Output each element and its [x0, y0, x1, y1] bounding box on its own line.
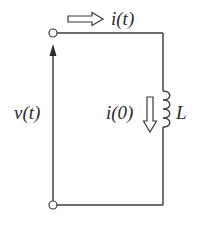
voltage-arrow-head-icon: [50, 44, 57, 56]
current-label: i(t): [111, 8, 134, 30]
inductor-label: L: [175, 102, 187, 123]
terminal-top-icon: [49, 29, 57, 37]
terminal-bottom-icon: [49, 201, 57, 209]
initial-current-arrow-icon: [144, 97, 157, 132]
current-arrow-icon: [68, 13, 103, 26]
voltage-label: v(t): [14, 102, 40, 124]
inductor-coil-icon: [163, 91, 170, 127]
initial-current-label: i(0): [106, 102, 133, 124]
circuit-diagram: i(t) v(t) i(0) L: [0, 0, 211, 234]
